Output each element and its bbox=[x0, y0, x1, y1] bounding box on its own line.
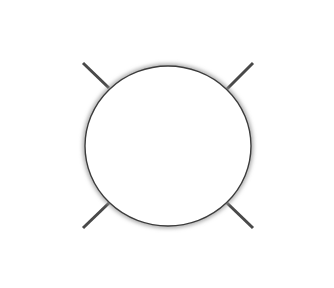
sun-icon bbox=[0, 0, 334, 288]
sun-disc bbox=[85, 66, 251, 226]
ray-bottom-left bbox=[83, 203, 109, 228]
sun-drawing bbox=[0, 0, 334, 288]
ray-top-left bbox=[83, 63, 109, 88]
ray-top-right bbox=[227, 63, 253, 89]
ray-bottom-right bbox=[227, 203, 253, 228]
